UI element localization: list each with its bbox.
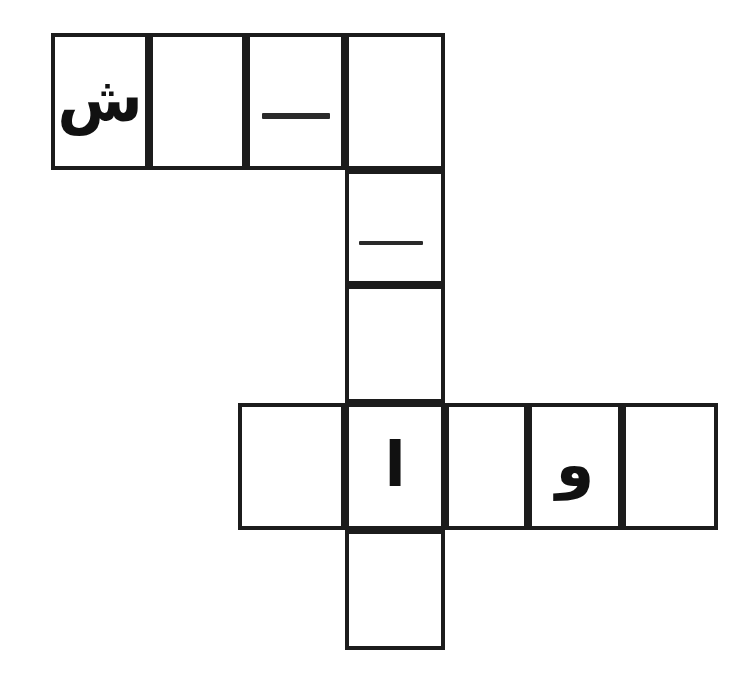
dash-mark-r1c3 (262, 113, 330, 119)
crossword-cell-r1c2[interactable] (149, 33, 246, 170)
crossword-cell-r1c4[interactable] (345, 33, 445, 170)
crossword-cell-r4c1[interactable] (238, 403, 345, 530)
crossword-cell-r1c3[interactable] (246, 33, 345, 170)
crossword-cell-r4c2[interactable]: ا (345, 403, 445, 530)
cell-letter-r1c1: ش (57, 69, 143, 131)
crossword-puzzle-canvas: ش ا و (0, 0, 751, 675)
cell-letter-r4c4: و (556, 434, 595, 496)
dash-mark-c2r2 (359, 241, 423, 245)
crossword-cell-c2r2[interactable] (345, 170, 445, 285)
crossword-cell-r4c4[interactable]: و (528, 403, 622, 530)
crossword-cell-r1c1[interactable]: ش (51, 33, 149, 170)
crossword-cell-r4c5[interactable] (622, 403, 718, 530)
crossword-cell-r4c3[interactable] (445, 403, 528, 530)
crossword-cell-c2r3[interactable] (345, 285, 445, 403)
crossword-cell-r5c2[interactable] (345, 530, 445, 650)
cell-letter-r4c2: ا (384, 434, 405, 496)
